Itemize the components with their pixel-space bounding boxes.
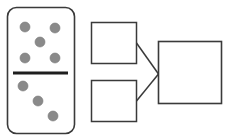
connector-line-top (137, 43, 159, 74)
dot-icon (33, 96, 43, 106)
dot-icon (20, 22, 30, 32)
domino-outline (8, 8, 75, 134)
dot-icon (50, 53, 60, 63)
dot-icon (35, 37, 45, 47)
connector-line-bottom (137, 74, 159, 101)
output-box (159, 42, 222, 104)
input-box-top (92, 23, 137, 64)
domino (8, 8, 75, 134)
diagram-canvas (0, 0, 233, 136)
dot-icon (48, 111, 58, 121)
dot-icon (50, 23, 60, 33)
input-box-bottom (92, 81, 137, 122)
dot-icon (20, 53, 30, 63)
dot-icon (18, 81, 28, 91)
